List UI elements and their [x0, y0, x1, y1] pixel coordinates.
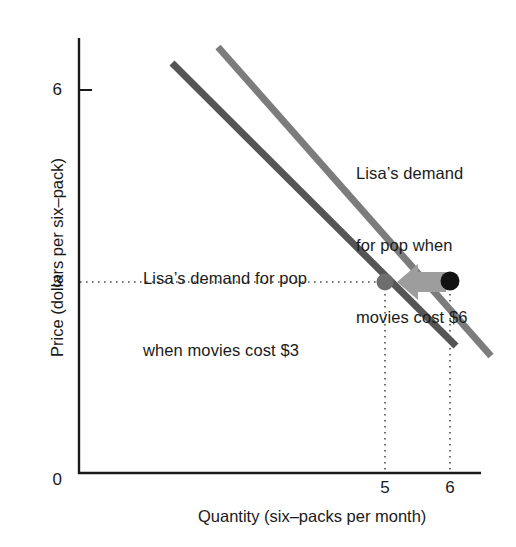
annotation-demand-movies-cost-3: Lisa’s demand for pop when movies cost $…: [143, 218, 307, 410]
y-tick-label-6: 6: [36, 80, 62, 100]
annotation-d6-line1: Lisa’s demand: [356, 161, 467, 185]
annotation-demand-movies-cost-6: Lisa’s demand for pop when movies cost $…: [356, 113, 467, 377]
x-tick-label-6: 6: [437, 478, 463, 498]
y-tick-label-0: 0: [36, 470, 62, 490]
y-axis-title: Price (dollars per six–pack): [48, 128, 67, 388]
x-axis-title: Quantity (six–packs per month): [198, 507, 426, 526]
annotation-d6-line2: for pop when: [356, 233, 467, 257]
x-tick-label-5: 5: [372, 478, 398, 498]
annotation-d3-line1: Lisa’s demand for pop: [143, 266, 307, 290]
annotation-d3-line2: when movies cost $3: [143, 338, 307, 362]
demand-curve-figure: 6 3 0 5 6 Price (dollars per six–pack) Q…: [0, 0, 516, 547]
annotation-d6-line3: movies cost $6: [356, 305, 467, 329]
